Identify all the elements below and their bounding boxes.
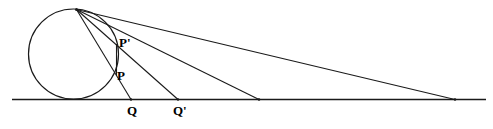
point-marker-s (454, 98, 457, 101)
geometry-figure: P' P Q Q' (0, 0, 493, 129)
geometry-canvas (0, 0, 493, 129)
point-marker-q (130, 98, 132, 100)
label-q: Q (127, 104, 137, 117)
label-p: P (117, 69, 125, 82)
ray-apex-to-q-prime (77, 10, 179, 100)
label-p-prime: P' (119, 36, 131, 49)
label-q-prime: Q' (173, 104, 187, 117)
point-marker-r (258, 98, 261, 101)
circle-shape (29, 9, 119, 99)
point-marker-q-prime (177, 98, 179, 100)
ray-apex-to-s (77, 10, 456, 100)
apex-point-marker (75, 8, 78, 11)
